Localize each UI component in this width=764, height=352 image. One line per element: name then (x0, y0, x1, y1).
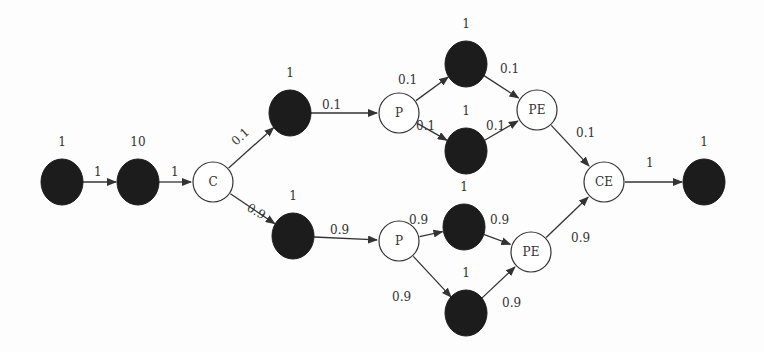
node-pe1: PE (517, 90, 557, 130)
edge-label: 0.9 (409, 213, 428, 227)
edge-p2-l2 (413, 256, 451, 297)
dark-node-circle (272, 213, 314, 259)
node-weight: 1 (289, 189, 297, 203)
node-label: PE (523, 245, 540, 259)
edge-label: 1 (171, 165, 179, 179)
node-label: P (395, 234, 403, 248)
node-label: PE (529, 103, 546, 117)
edge-label: 0.1 (229, 125, 253, 148)
node-p1: P (379, 93, 419, 133)
node-c: C (193, 162, 233, 202)
edge-label: 0.1 (576, 126, 595, 140)
edge-label: 0.1 (398, 73, 417, 87)
flow-diagram: 110.10.10.10.10.10.10.110.90.90.90.90.90… (0, 0, 764, 352)
node-b1 (272, 213, 314, 259)
node-weight: 1 (58, 135, 66, 149)
edge-label: 0.9 (392, 290, 411, 304)
node-label: CE (595, 175, 613, 189)
node-end (683, 159, 725, 205)
node-weight: 1 (462, 266, 470, 280)
edge-label: 0.1 (500, 62, 519, 76)
node-u2 (445, 128, 487, 174)
node-pe2: PE (511, 232, 551, 272)
node-l2 (445, 290, 487, 336)
edge-label: 0.1 (486, 119, 505, 133)
edge-l2-pe2 (481, 267, 515, 299)
dark-node-circle (117, 159, 159, 205)
edge-label: 0.9 (245, 200, 269, 222)
dark-node-circle (41, 159, 83, 205)
dark-node-circle (683, 159, 725, 205)
edge-label: 0.9 (490, 213, 509, 227)
edge-u1-pe1 (484, 75, 519, 98)
dark-node-circle (445, 128, 487, 174)
edge-label: 0.9 (330, 223, 349, 237)
edge-p1-u1 (416, 77, 448, 101)
node-weight: 1 (286, 66, 294, 80)
edge-l1-pe2 (484, 234, 511, 244)
node-weight: 10 (130, 135, 145, 149)
dark-node-circle (443, 204, 485, 250)
nodes-layer: CPPECEPPE (41, 41, 725, 336)
node-weight: 1 (460, 180, 468, 194)
edge-b1-p2 (314, 237, 377, 240)
edge-p2-l1 (420, 232, 443, 237)
node-u1 (445, 41, 487, 87)
node-ce: CE (584, 162, 624, 202)
edge-label: 0.9 (571, 231, 590, 245)
node-weight: 1 (462, 17, 470, 31)
dark-node-circle (269, 90, 311, 136)
node-n1 (41, 159, 83, 205)
dark-node-circle (445, 290, 487, 336)
node-p2: P (379, 221, 419, 261)
edge-label: 0.1 (322, 98, 341, 112)
edge-labels-layer: 110.10.10.10.10.10.10.110.90.90.90.90.90… (94, 62, 654, 310)
node-n2 (117, 159, 159, 205)
edge-label: 1 (94, 165, 102, 179)
edge-label: 1 (646, 156, 654, 170)
node-l1 (443, 204, 485, 250)
edge-label: 0.1 (416, 119, 435, 133)
edge-label: 0.9 (502, 296, 521, 310)
dark-node-circle (445, 41, 487, 87)
node-a1 (269, 90, 311, 136)
node-weight: 1 (700, 135, 708, 149)
node-label: P (395, 106, 403, 120)
node-weight: 1 (462, 104, 470, 118)
node-label: C (208, 175, 217, 189)
